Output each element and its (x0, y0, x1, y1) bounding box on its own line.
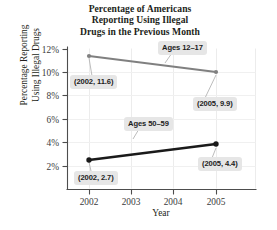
x-tick-label-2003: 2003 (122, 197, 141, 207)
data-point-2005-9-9 (214, 70, 218, 74)
x-axis-ticks (90, 190, 217, 195)
series-label-ages-12-17: Ages 12–17 (158, 41, 207, 55)
x-tick-label-2004: 2004 (164, 197, 183, 207)
plot-area: 12% 10% 8% 6% 4% 2% 2002 2003 2004 2005 (0, 0, 277, 230)
y-tick-label-12pct: 12% (42, 45, 59, 55)
annotation-2005-9-9: (2005, 9.9) (193, 97, 237, 111)
annotation-2002-2-7: (2002, 2.7) (74, 171, 118, 185)
annotation-2005-4-4: (2005, 4.4) (198, 157, 242, 171)
series-line-ages-12-17 (89, 56, 216, 72)
chart-figure: Percentage of Americans Reporting Using … (0, 0, 277, 230)
data-point-2005-4-4 (213, 141, 218, 146)
series-label-ages-50-59: Ages 50–59 (124, 117, 173, 131)
data-point-2002-11-6 (87, 54, 91, 58)
y-tick-label-10pct: 10% (42, 68, 59, 78)
y-tick-label-8pct: 8% (47, 91, 60, 101)
x-tick-label-2002: 2002 (80, 197, 99, 207)
y-tick-label-2pct: 2% (47, 162, 60, 172)
series-ages-12-17 (87, 54, 218, 74)
x-tick-label-2005: 2005 (207, 197, 226, 207)
data-point-2002-2-7 (86, 157, 91, 162)
y-tick-label-4pct: 4% (47, 138, 60, 148)
y-axis-ticks (63, 50, 68, 167)
annotation-2002-11-6: (2002, 11.6) (70, 75, 117, 89)
y-tick-label-6pct: 6% (47, 115, 60, 125)
callout-leader-lines (89, 53, 216, 171)
leader-2005-99 (205, 75, 216, 98)
series-line-ages-50-59 (89, 144, 216, 160)
